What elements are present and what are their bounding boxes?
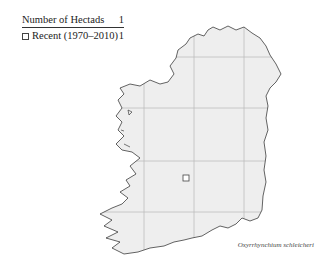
species-name: Oxyrrhynchium schleicheri <box>238 241 314 249</box>
recent-record-marker <box>183 175 189 181</box>
distribution-map <box>0 0 326 269</box>
